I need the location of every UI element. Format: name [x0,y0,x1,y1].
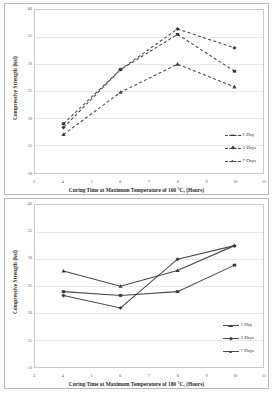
legend-label: 1 Day [243,133,255,138]
y-tick-label: 20 [28,311,32,315]
series-line [64,34,235,123]
x-tick-label: 9 [205,373,207,379]
legend-item: ◆3 Days [225,146,256,151]
x-tick-label: 3 [33,179,35,185]
y-tick-label: 25 [28,89,32,93]
x-tick-label: 5 [90,179,92,185]
legend-item: ▬1 Day [225,133,256,138]
data-point-marker [61,293,65,297]
data-point-marker [61,269,65,273]
x-tick-label: 7 [148,179,150,185]
y-tick-label: 10 [28,366,32,370]
y-tick-label: 35 [28,34,32,38]
figure-page: Compressive Strength (ksi) 4035302520151… [0,0,273,393]
y-axis-title-180c: Compressive Strength (ksi) [9,199,21,367]
data-point-marker [233,70,236,73]
y-tick-label: 40 [28,201,32,205]
legend-item: ▲7 Days [225,159,256,164]
legend-160c: ▬1 Day◆3 Days▲7 Days [225,133,256,164]
y-tick-label: 35 [28,229,32,233]
legend-marker-icon: ▲ [225,159,241,164]
x-tick-label: 4 [62,373,64,379]
y-tick-label: 30 [28,62,32,66]
data-point-marker [176,290,179,293]
x-tick-label: 11 [262,179,266,185]
y-tick-label: 20 [28,117,32,121]
x-tick-label: 8 [177,373,179,379]
data-point-marker [62,122,65,125]
x-axis-tick-labels-160c: 34567891011 [34,179,264,185]
x-tick-label: 3 [33,373,35,379]
legend-label: 3 Days [243,146,256,151]
x-tick-label: 10 [233,373,237,379]
x-tick-label: 7 [148,373,150,379]
legend-180c: ▬1 Day◆3 Days▲7 Days [223,323,254,354]
x-tick-label: 11 [262,373,266,379]
legend-item: ▬1 Day [223,323,254,328]
chart-panel-180c: Compressive Strength (ksi) 4035302520151… [4,198,269,390]
data-point-marker [176,33,179,36]
data-point-marker [175,27,179,31]
y-axis-tick-labels-180c: 40353025201510 [22,204,33,369]
x-tick-label: 9 [205,179,207,185]
legend-marker-icon: ▲ [223,349,239,354]
legend-item: ◆3 Days [223,336,254,341]
legend-marker-icon: ◆ [225,146,241,151]
legend-marker-icon: ◆ [223,336,239,341]
y-tick-label: 30 [28,256,32,260]
legend-label: 7 Days [243,159,256,164]
data-point-marker [232,46,236,50]
x-tick-label: 4 [62,179,64,185]
y-tick-label: 10 [28,171,32,175]
x-tick-label: 10 [233,179,237,185]
x-tick-label: 8 [177,179,179,185]
x-axis-title-180c: Curing Time at Maximum Temperature of 18… [5,381,268,387]
x-tick-label: 6 [119,179,121,185]
y-tick-label: 40 [28,7,32,11]
y-tick-label: 15 [28,144,32,148]
legend-label: 1 Day [241,323,253,328]
y-tick-label: 15 [28,338,32,342]
legend-label: 7 Days [241,349,254,354]
y-tick-label: 25 [28,284,32,288]
legend-label: 3 Days [241,336,254,341]
x-tick-label: 6 [119,373,121,379]
data-point-marker [62,290,65,293]
data-point-marker [175,62,179,66]
legend-item: ▲7 Days [223,349,254,354]
x-axis-title-160c: Curing Time at Maximum Temperature of 16… [5,187,268,193]
y-axis-tick-labels-160c: 40353025201510 [22,9,33,174]
y-axis-title-160c: Compressive Strength (ksi) [9,4,21,172]
data-point-marker [119,294,122,297]
x-tick-label: 5 [90,373,92,379]
series-line [64,265,235,295]
legend-marker-icon: ▬ [223,323,239,328]
x-axis-tick-labels-180c: 34567891011 [34,373,264,379]
chart-panel-160c: Compressive Strength (ksi) 4035302520151… [4,3,269,195]
legend-marker-icon: ▬ [225,133,241,138]
data-point-marker [233,263,236,266]
